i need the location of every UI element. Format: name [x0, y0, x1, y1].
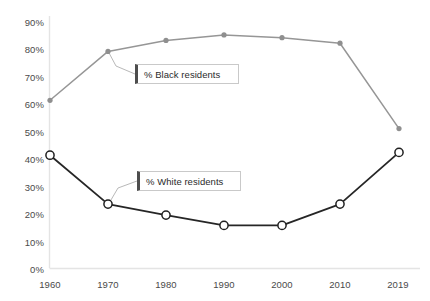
data-point-marker — [163, 38, 168, 43]
data-point-marker — [337, 41, 342, 46]
data-point-marker — [221, 32, 226, 37]
data-point-marker — [336, 200, 344, 208]
legend-callout-white-residents: % White residents — [137, 171, 241, 191]
callout-connector-white — [108, 181, 137, 205]
data-point-marker — [278, 221, 286, 229]
data-point-marker — [162, 211, 170, 219]
legend-callout-black-residents: % Black residents — [135, 64, 239, 84]
callout-connector-black — [108, 51, 135, 74]
data-point-marker — [47, 98, 52, 103]
data-point-marker — [105, 49, 110, 54]
data-point-marker — [396, 126, 401, 131]
chart-container: 90% 80% 70% 60% 50% 40% 30% 20% 10% 0% 1… — [0, 0, 430, 301]
legend-callout-black-residents-label: % Black residents — [144, 69, 220, 80]
data-point-marker — [279, 35, 284, 40]
plot-area — [0, 0, 430, 301]
legend-callout-white-residents-label: % White residents — [146, 176, 223, 187]
data-point-marker — [104, 200, 112, 208]
data-point-marker — [46, 151, 54, 159]
data-point-marker — [220, 221, 228, 229]
data-point-marker — [395, 148, 403, 156]
